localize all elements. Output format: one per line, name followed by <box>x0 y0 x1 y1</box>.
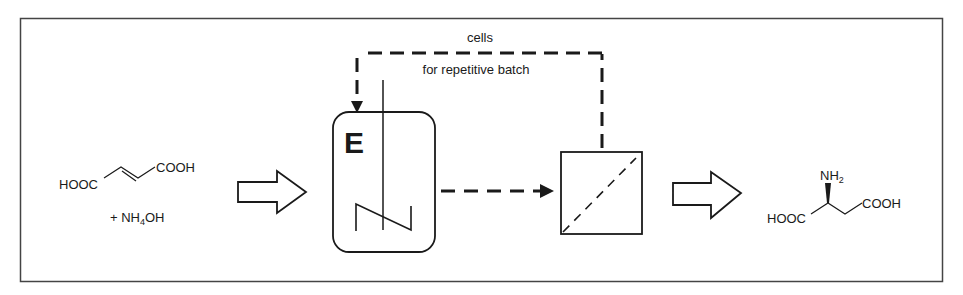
output-arrow-icon <box>673 172 741 218</box>
product-amine-group: NH2 <box>820 168 844 185</box>
reactor-vessel-icon <box>333 80 435 252</box>
fumaric-right-group: COOH <box>156 160 195 175</box>
feed-arrow-icon <box>238 171 306 213</box>
cells-label: cells <box>467 30 494 45</box>
product-right-group: COOH <box>862 196 901 211</box>
aspartic-acid-structure: HOOC NH2 COOH <box>767 168 901 226</box>
enzyme-label: E <box>344 126 364 159</box>
diagram-frame <box>21 19 943 282</box>
fumaric-left-group: HOOC <box>59 177 98 192</box>
transfer-arrow <box>441 184 554 198</box>
transfer-arrowhead-icon <box>540 184 554 198</box>
membrane-filter-icon <box>561 152 642 234</box>
fumaric-acid-structure: HOOC COOH <box>59 160 195 192</box>
product-left-group: HOOC <box>767 211 806 226</box>
repetitive-batch-label: for repetitive batch <box>423 62 530 77</box>
process-diagram: HOOC COOH + NH4OH E cells for repetitive… <box>0 0 963 295</box>
ammonia-label: + NH4OH <box>110 210 165 227</box>
